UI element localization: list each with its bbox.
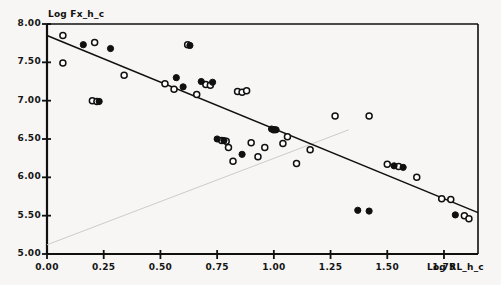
data-point-open — [60, 33, 66, 39]
data-point-filled — [355, 207, 361, 213]
data-point-filled — [80, 42, 86, 48]
scan-crease — [47, 130, 349, 245]
data-point-open — [284, 134, 290, 140]
data-point-filled — [239, 151, 245, 157]
regression-line — [47, 36, 478, 213]
y-axis-title: Log Fx_h_c — [48, 9, 104, 19]
data-point-open — [121, 72, 127, 78]
data-point-open — [244, 88, 250, 94]
scan-crease-line — [47, 130, 349, 245]
data-point-open — [448, 197, 454, 203]
data-point-filled — [187, 42, 193, 48]
data-point-filled — [180, 84, 186, 90]
y-tick-label: 5.00 — [3, 248, 41, 258]
data-point-filled — [214, 136, 220, 142]
data-point-open — [171, 86, 177, 92]
data-point-open — [280, 141, 286, 147]
x-tick-label: 0.75 — [201, 262, 233, 272]
x-tick-label: 0.50 — [144, 262, 176, 272]
data-point-filled — [273, 127, 279, 133]
data-point-open — [230, 158, 236, 164]
data-point-filled — [198, 78, 204, 84]
data-point-filled — [366, 208, 372, 214]
data-point-open — [332, 113, 338, 119]
axes — [42, 24, 478, 259]
y-tick-label: 5.50 — [3, 210, 41, 220]
data-point-filled — [221, 137, 227, 143]
y-tick-label: 7.50 — [3, 56, 41, 66]
data-point-filled — [452, 212, 458, 218]
y-tick-label: 6.50 — [3, 133, 41, 143]
data-point-open — [225, 144, 231, 150]
data-point-open — [466, 216, 472, 222]
data-point-open — [366, 113, 372, 119]
x-axis-title: Log RL_h_c — [427, 262, 484, 272]
data-point-open — [439, 196, 445, 202]
fit-line — [47, 36, 478, 213]
x-tick-label: 0.00 — [31, 262, 63, 272]
x-tick-label: 1.50 — [371, 262, 403, 272]
y-tick-label: 7.00 — [3, 95, 41, 105]
data-point-filled — [96, 98, 102, 104]
x-tick-label: 0.25 — [88, 262, 120, 272]
data-point-open — [162, 81, 168, 87]
data-point-open — [92, 39, 98, 45]
data-point-open — [307, 147, 313, 153]
data-point-open — [294, 161, 300, 167]
data-points — [60, 33, 472, 222]
y-tick-label: 6.00 — [3, 171, 41, 181]
data-point-open — [194, 92, 200, 98]
data-point-filled — [391, 163, 397, 169]
y-tick-label: 8.00 — [3, 18, 41, 28]
data-point-open — [384, 161, 390, 167]
data-point-filled — [107, 45, 113, 51]
scatter-plot-figure: 5.005.506.006.507.007.508.000.000.250.50… — [0, 0, 501, 285]
x-tick-label: 1.25 — [315, 262, 347, 272]
data-point-open — [255, 154, 261, 160]
data-point-open — [262, 144, 268, 150]
data-point-filled — [209, 79, 215, 85]
data-point-open — [248, 140, 254, 146]
data-point-filled — [400, 164, 406, 170]
plot-canvas — [0, 0, 501, 285]
data-point-open — [60, 60, 66, 66]
data-point-filled — [173, 75, 179, 81]
data-point-open — [414, 174, 420, 180]
x-tick-label: 1.00 — [258, 262, 290, 272]
